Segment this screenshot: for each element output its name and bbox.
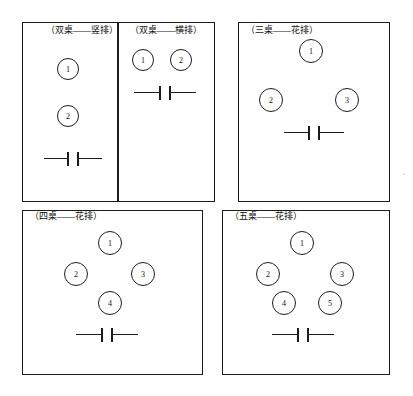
- door-rail-left: [76, 334, 101, 335]
- table-circle-two-tables-vertical-2: 2: [57, 105, 79, 127]
- table-number: 3: [340, 270, 344, 279]
- door-rail-left: [272, 334, 297, 335]
- table-number: 2: [269, 96, 273, 105]
- door-rail-right: [113, 334, 138, 335]
- table-number: 1: [141, 56, 145, 65]
- table-number: 5: [328, 299, 332, 308]
- table-circle-three-tables-staggered-1: 1: [299, 39, 323, 63]
- table-number: 2: [74, 270, 78, 279]
- table-number: 1: [309, 47, 313, 56]
- door-rail-right: [79, 158, 102, 159]
- table-circle-three-tables-staggered-2: 2: [259, 88, 283, 112]
- table-number: 1: [108, 239, 112, 248]
- panel-title-two-tables-vertical: （双桌——竖排）: [46, 25, 118, 36]
- door-symbol-four-tables-staggered: [76, 328, 136, 342]
- table-number: 4: [282, 299, 286, 308]
- table-circle-five-tables-staggered-1: 1: [290, 231, 314, 255]
- stray-pen-mark: ʻ: [403, 172, 405, 180]
- table-circle-two-tables-horizontal-1: 1: [132, 49, 154, 71]
- panel-title-five-tables-staggered: （五桌——花排）: [230, 211, 302, 222]
- table-circle-three-tables-staggered-3: 3: [335, 88, 359, 112]
- door-rail-right: [309, 334, 334, 335]
- panel-title-two-tables-horizontal: （双桌——横排）: [130, 25, 202, 36]
- table-circle-five-tables-staggered-3: 3: [330, 262, 354, 286]
- table-number: 2: [66, 112, 70, 121]
- table-circle-five-tables-staggered-4: 4: [272, 291, 296, 315]
- table-number: 4: [108, 299, 112, 308]
- door-jamb-left: [159, 86, 161, 100]
- door-symbol-two-tables-vertical: [44, 152, 100, 166]
- door-symbol-three-tables-staggered: [284, 126, 342, 140]
- door-symbol-five-tables-staggered: [272, 328, 332, 342]
- panel-title-four-tables-staggered: （四桌——花排）: [30, 211, 102, 222]
- door-jamb-left: [101, 328, 103, 342]
- door-jamb-left: [308, 126, 310, 140]
- door-symbol-two-tables-horizontal: [134, 86, 194, 100]
- table-circle-five-tables-staggered-2: 2: [256, 262, 280, 286]
- table-number: 1: [66, 65, 70, 74]
- door-rail-left: [44, 158, 67, 159]
- table-number: 2: [266, 270, 270, 279]
- table-circle-four-tables-staggered-2: 2: [64, 262, 88, 286]
- door-jamb-left: [297, 328, 299, 342]
- table-circle-two-tables-vertical-1: 1: [57, 58, 79, 80]
- table-circle-four-tables-staggered-3: 3: [131, 262, 155, 286]
- panel-divider-vertical: [117, 22, 119, 202]
- door-rail-right: [171, 92, 196, 93]
- table-circle-five-tables-staggered-5: 5: [318, 291, 342, 315]
- table-circle-four-tables-staggered-1: 1: [98, 231, 122, 255]
- table-number: 2: [179, 56, 183, 65]
- door-rail-left: [134, 92, 159, 93]
- seating-layout-diagram: （双桌——竖排）12（双桌——横排）12（三桌——花排）123（四桌——花排）1…: [0, 0, 413, 396]
- table-circle-two-tables-horizontal-2: 2: [170, 49, 192, 71]
- door-jamb-left: [67, 152, 69, 166]
- door-rail-left: [284, 132, 308, 133]
- table-number: 1: [300, 239, 304, 248]
- door-rail-right: [320, 132, 344, 133]
- panel-title-three-tables-staggered: （三桌——花排）: [246, 25, 318, 36]
- table-number: 3: [141, 270, 145, 279]
- table-circle-four-tables-staggered-4: 4: [98, 291, 122, 315]
- table-number: 3: [345, 96, 349, 105]
